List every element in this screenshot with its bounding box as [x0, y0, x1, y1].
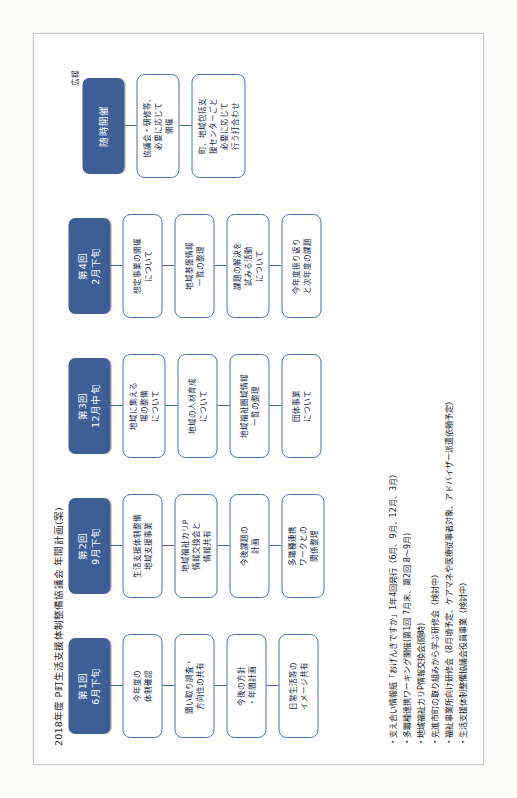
- agenda-node[interactable]: 生活支援体制整備地域支援事業: [122, 494, 162, 598]
- connector-line: [110, 266, 122, 267]
- plan-column: 第4回2月下旬想定事業の開催について地域基盤情報一覧の整理課題の解決を試みる活動…: [68, 204, 368, 328]
- bullet-item: ・地域福祉カリP情報交換会(随時): [414, 56, 428, 746]
- bullet-item: ・福祉事業所向け研修会（8月頃予定、ケアマネや医療従事者対象、アドバイザー派遣依…: [442, 56, 456, 746]
- agenda-node[interactable]: 日常生活等のイメージ共有: [278, 634, 318, 738]
- scanned-page: 2018年度 P町生活支援体制整備協議会 年間計画(案) 第1回6月下旬今年度の…: [33, 33, 484, 765]
- agenda-node[interactable]: 協議会・研修等、必要に応じて開催: [136, 74, 179, 178]
- page-title: 2018年度 P町生活支援体制整備協議会 年間計画(案): [50, 50, 64, 746]
- connector-line: [110, 546, 122, 547]
- connector-line: [110, 406, 122, 407]
- column-header-number: 第3回: [76, 392, 89, 419]
- column-header-when: 6月下旬: [89, 667, 102, 705]
- connector-line: [266, 686, 278, 687]
- agenda-node[interactable]: 地域基盤情報一覧の整理: [174, 214, 214, 318]
- agenda-node[interactable]: 今後課題の計画: [229, 494, 269, 598]
- connector-line: [269, 546, 281, 547]
- connector-line: [214, 266, 226, 267]
- column-header[interactable]: 第1回6月下旬: [68, 638, 110, 734]
- column-note: 広報: [68, 70, 79, 86]
- plan-column: 第2回9月下旬生活支援体制整備地域支援事業地域福祉カリP情報交換会と情報共有今後…: [68, 484, 368, 608]
- column-header[interactable]: 第2回9月下旬: [68, 498, 110, 594]
- agenda-node[interactable]: 地域の人材育成について: [177, 354, 217, 458]
- connector-line: [110, 686, 122, 687]
- bullet-item: ・生活支援体制整備協議会役員事業（検討中）: [456, 56, 470, 746]
- column-header-number: 第2回: [76, 532, 89, 559]
- connector-line: [124, 126, 136, 127]
- agenda-node[interactable]: 町、地域包括支援センターごと必要に応じて行う打合わせ: [191, 74, 245, 178]
- column-header-when: 2月下旬: [89, 247, 102, 285]
- footnote-bullet-list: ・支え合い情報紙「おげんきですか」1年4回発行（6月、9月、12月、3月）・多職…: [386, 56, 469, 746]
- column-header[interactable]: 第3回12月中旬: [68, 358, 110, 454]
- agenda-node[interactable]: 今年度の体制確認: [122, 634, 162, 738]
- connector-line: [162, 686, 174, 687]
- column-header[interactable]: 随時開催: [82, 78, 124, 174]
- plan-column: 広報随時開催協議会・研修等、必要に応じて開催町、地域包括支援センターごと必要に応…: [68, 64, 368, 188]
- column-header-when: 12月中旬: [89, 384, 102, 428]
- column-header-when: 随時開催: [97, 105, 110, 147]
- bullet-item: ・支え合い情報紙「おげんきですか」1年4回発行（6月、9月、12月、3月）: [386, 56, 400, 746]
- connector-line: [165, 406, 177, 407]
- bullet-item: ・先進市町の取り組みから学ぶ研修会（検討中）: [428, 56, 442, 746]
- connector-line: [269, 266, 281, 267]
- connector-line: [269, 406, 281, 407]
- plan-sheet: 2018年度 P町生活支援体制整備協議会 年間計画(案) 第1回6月下旬今年度の…: [34, 34, 483, 764]
- plan-column: 第1回6月下旬今年度の体制確認聞い取り調査・方向性の共有今後の方針・年間計画日常…: [68, 624, 368, 748]
- connector-line: [162, 266, 174, 267]
- annual-plan-flowchart: 第1回6月下旬今年度の体制確認聞い取り調査・方向性の共有今後の方針・年間計画日常…: [68, 50, 368, 748]
- agenda-node[interactable]: 今後の方針・年間計画: [226, 634, 266, 738]
- column-header[interactable]: 第4回2月下旬: [68, 218, 110, 314]
- connector-line: [179, 126, 191, 127]
- plan-column: 第3回12月中旬地域に集える場の整備について地域の人材育成について地域福祉圏域情…: [68, 344, 368, 468]
- connector-line: [162, 546, 174, 547]
- agenda-node[interactable]: 聞い取り調査・方向性の共有: [174, 634, 214, 738]
- agenda-node[interactable]: 地域福祉圏域情報一覧の整理: [229, 354, 269, 458]
- column-header-number: 第1回: [76, 672, 89, 699]
- connector-line: [214, 686, 226, 687]
- agenda-node[interactable]: 課題の解決を試みる活動について: [226, 214, 269, 318]
- connector-line: [217, 406, 229, 407]
- column-header-number: 第4回: [76, 252, 89, 279]
- agenda-node[interactable]: 団体事業について: [281, 354, 321, 458]
- agenda-node[interactable]: 地域福祉カリP情報交換会と情報共有: [174, 494, 217, 598]
- agenda-node[interactable]: 多職種連携ワークとの関係整理: [281, 494, 324, 598]
- column-header-when: 9月下旬: [89, 527, 102, 565]
- rotated-content-wrapper: 2018年度 P町生活支援体制整備協議会 年間計画(案) 第1回6月下旬今年度の…: [34, 34, 483, 764]
- connector-line: [217, 546, 229, 547]
- agenda-node[interactable]: 想定事業の開催について: [122, 214, 162, 318]
- bullet-item: ・多職種連携ワーキング開催(第1回 7月末、第2回 8～9月): [400, 56, 414, 746]
- agenda-node[interactable]: 地域に集える場の整備について: [122, 354, 165, 458]
- agenda-node[interactable]: 今年度振り返りと次年度の課題: [281, 214, 321, 318]
